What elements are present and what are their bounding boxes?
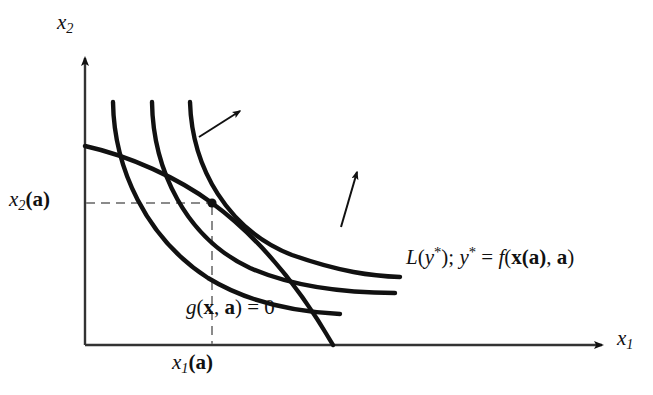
constraint-comma: ,	[214, 295, 225, 319]
level-set-inner-paren-close: )	[567, 245, 574, 269]
direction-arrow-upper-icon	[199, 111, 240, 137]
x-tick-argument: (a)	[188, 350, 213, 374]
level-set-y1: y	[425, 245, 434, 269]
y-axis-tick-label: x2(a)	[9, 189, 50, 212]
level-set-annotation: L(y*); y* = f(x(a), a)	[406, 245, 574, 268]
x-axis-title: x1	[617, 328, 633, 351]
y-axis-title-subscript: 2	[66, 20, 73, 36]
y-tick-base: x	[9, 187, 18, 211]
y-axis-title-base: x	[57, 10, 66, 34]
level-set-x-bold: x	[511, 245, 522, 269]
level-set-a-bold-1: (a)	[522, 245, 547, 269]
x-axis-title-subscript: 1	[626, 336, 633, 352]
level-set-close-semicolon: );	[441, 245, 459, 269]
tangency-point-marker	[207, 198, 216, 207]
y-tick-argument: (a)	[25, 187, 50, 211]
level-set-star-2: *	[469, 244, 476, 260]
level-set-comma: ,	[546, 245, 557, 269]
constraint-x-bold: x	[204, 295, 215, 319]
y-axis-title: x2	[57, 12, 73, 35]
constraint-g: g	[186, 295, 197, 319]
level-set-L: L	[406, 245, 418, 269]
constraint-a-bold: a	[225, 295, 236, 319]
figure-root: x2 x1 x2(a) x1(a) L(y*); y* = f(x(a), a)…	[0, 0, 653, 395]
constraint-paren-open: (	[197, 295, 204, 319]
x-axis-tick-label: x1(a)	[172, 352, 213, 375]
constraint-equals-zero: = 0	[242, 295, 275, 319]
constraint-annotation: g(x, a) = 0	[186, 297, 275, 318]
figure-canvas	[0, 0, 653, 395]
level-set-y2: y	[459, 245, 468, 269]
level-set-a-bold-2: a	[557, 245, 568, 269]
level-set-paren-open: (	[418, 245, 425, 269]
constraint-paren-close: )	[235, 295, 242, 319]
direction-arrow-lower-icon	[341, 172, 357, 227]
x-axis-title-base: x	[617, 326, 626, 350]
x-tick-base: x	[172, 350, 181, 374]
level-set-equals: =	[476, 245, 498, 269]
